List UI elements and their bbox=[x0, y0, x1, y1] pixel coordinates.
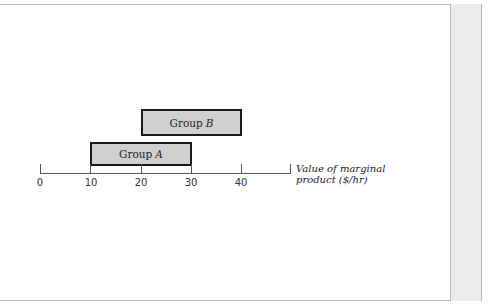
x-tick-label: 20 bbox=[135, 177, 148, 188]
x-axis-tick bbox=[191, 164, 192, 174]
x-axis-tick bbox=[90, 164, 91, 174]
x-axis-end-tick bbox=[290, 164, 291, 174]
x-axis-tick bbox=[40, 164, 41, 174]
range-chart: GroupB GroupA 0 10 20 30 40 Value of mar… bbox=[0, 0, 450, 306]
x-axis-title: Value of marginal product ($/hr) bbox=[296, 163, 385, 185]
x-tick-label: 0 bbox=[37, 177, 43, 188]
x-axis-tick bbox=[141, 164, 142, 174]
x-axis-title-line2: product ($/hr) bbox=[296, 174, 385, 185]
x-axis-line bbox=[40, 173, 290, 174]
x-tick-label: 40 bbox=[235, 177, 248, 188]
side-panel bbox=[450, 4, 482, 301]
bar-group-b: GroupB bbox=[141, 109, 242, 136]
bar-group-a: GroupA bbox=[90, 142, 192, 166]
x-tick-label: 10 bbox=[85, 177, 98, 188]
bar-label: Group bbox=[119, 148, 152, 160]
bar-label-var: A bbox=[155, 148, 163, 160]
bar-label-var: B bbox=[206, 117, 214, 129]
bar-label: Group bbox=[170, 117, 203, 129]
x-axis-tick bbox=[241, 164, 242, 174]
x-tick-label: 30 bbox=[185, 177, 198, 188]
x-axis-title-line1: Value of marginal bbox=[296, 163, 385, 174]
